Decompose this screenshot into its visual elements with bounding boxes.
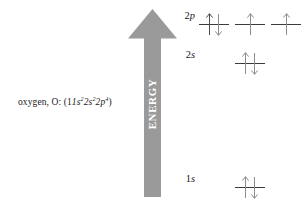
orbital-box-2py	[235, 10, 265, 40]
spin-up-arrow-icon	[282, 12, 291, 36]
orbital-box-2pz	[271, 10, 301, 40]
orbital-level-1s: 1s	[168, 173, 305, 203]
electron-pair	[199, 10, 229, 40]
orbital-level-2p: 2p	[168, 10, 305, 40]
orbital-label-2s: 2s	[168, 49, 195, 60]
electron-single	[235, 10, 265, 40]
orbital-slots-2p	[199, 10, 305, 40]
spin-up-arrow-icon	[246, 12, 255, 36]
orbital-energy-diagram: oxygen, O: (11s22s22p4) ENERGY 2p	[0, 0, 305, 214]
configuration-text: (11s22s22p4)	[61, 97, 112, 107]
spin-down-arrow-icon	[214, 13, 223, 37]
config-term-1s: 1s2	[72, 97, 84, 107]
orbital-box-2px	[199, 10, 229, 40]
config-term-2p: 2p4	[96, 97, 109, 107]
element-configuration-label: oxygen, O: (11s22s22p4)	[18, 97, 112, 107]
electron-pair	[235, 173, 265, 203]
spin-down-arrow-icon	[250, 52, 259, 76]
spin-up-arrow-icon	[205, 12, 214, 36]
element-name-text: oxygen, O:	[18, 97, 61, 107]
electron-pair	[235, 49, 265, 79]
spin-down-arrow-icon	[250, 176, 259, 200]
orbital-box-2s	[235, 49, 265, 79]
orbital-slots-2s	[199, 49, 305, 79]
orbital-level-2s: 2s	[168, 49, 305, 79]
orbital-box-1s	[235, 173, 265, 203]
spin-up-arrow-icon	[241, 175, 250, 199]
config-term-2s: 2s2	[84, 97, 96, 107]
spin-up-arrow-icon	[241, 51, 250, 75]
orbital-slots-1s	[199, 173, 305, 203]
orbital-label-1s: 1s	[168, 173, 195, 184]
electron-single	[271, 10, 301, 40]
orbital-label-2p: 2p	[168, 10, 195, 21]
